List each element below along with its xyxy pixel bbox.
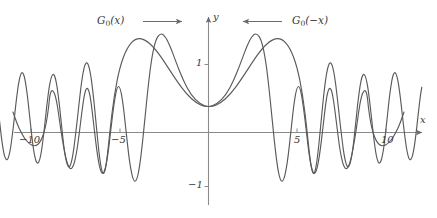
x-tick-label--10: −10 xyxy=(19,135,40,145)
x-axis-label: x xyxy=(420,115,426,125)
axes-group xyxy=(14,17,422,205)
x-tick-label-10: 10 xyxy=(381,135,394,145)
x-tick-label--5: −5 xyxy=(111,135,126,145)
y-axis-label: y xyxy=(213,12,219,22)
plot-canvas xyxy=(0,0,437,218)
curve-label-G0-minus-x: G0(−x) xyxy=(292,15,328,27)
curve-label-G0-minus-x-arg: (−x) xyxy=(305,14,328,26)
y-tick-label--1: −1 xyxy=(188,180,203,190)
curve-label-G0-x-arg: (x) xyxy=(110,14,124,26)
curve-G0-of-minus-x xyxy=(0,34,404,181)
curve-label-G0-x: G0(x) xyxy=(97,15,124,27)
function-plot-figure: G0(x) G0(−x) y x −10 −5 5 10 1 −1 xyxy=(0,0,437,218)
x-tick-label-5: 5 xyxy=(294,135,300,145)
y-tick-label-1: 1 xyxy=(196,58,202,68)
curve-G0-of-x xyxy=(13,34,422,181)
